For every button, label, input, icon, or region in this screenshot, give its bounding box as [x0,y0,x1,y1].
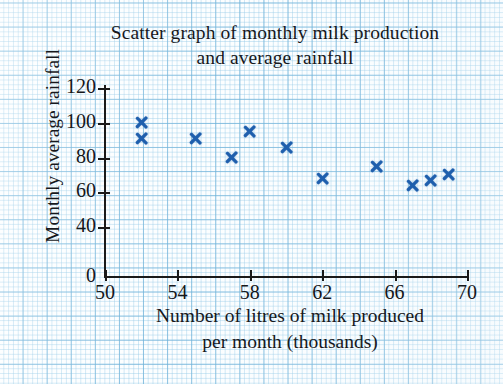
x-tick-label-62: 62 [302,281,342,304]
y-tick-40 [98,227,110,229]
y-tick-120 [98,88,110,90]
y-tick-80 [98,158,110,160]
x-tick-58 [250,270,252,281]
data-point [242,124,257,139]
data-point [188,131,203,146]
data-point [369,159,384,174]
x-tick-label-66: 66 [375,281,415,304]
y-tick-label-120: 120 [50,75,96,98]
x-tick-54 [177,270,179,281]
x-tick-70 [467,270,469,281]
x-tick-66 [395,270,397,281]
x-tick-label-54: 54 [157,281,197,304]
data-point [423,173,438,188]
y-tick-label-100: 100 [50,110,96,133]
x-tick-50 [105,270,107,281]
x-tick-label-58: 58 [230,281,270,304]
x-tick-label-50: 50 [85,281,125,304]
data-point [134,115,149,130]
x-tick-label-70: 70 [447,281,487,304]
chart-title-line-2: and average rainfall [60,45,490,70]
y-axis-tick-labels: 0406080100120 [44,0,96,384]
chart-title-line-1: Scatter graph of monthly milk production [111,22,439,43]
y-tick-label-40: 40 [50,214,96,237]
x-axis-label-line-2: per month (thousands) [95,329,485,355]
y-tick-label-80: 80 [50,145,96,168]
chart-title: Scatter graph of monthly milk production… [60,20,490,70]
data-point [405,178,420,193]
y-tick-60 [98,192,110,194]
y-axis-line [104,85,106,278]
data-point [441,167,456,182]
x-axis-label: Number of litres of milk produced per mo… [95,303,485,355]
x-tick-62 [322,270,324,281]
data-point [134,131,149,146]
y-tick-100 [98,123,110,125]
data-point [315,171,330,186]
x-axis-line [104,276,468,278]
x-axis-label-line-1: Number of litres of milk produced [156,305,424,326]
data-point [224,150,239,165]
y-tick-label-60: 60 [50,179,96,202]
scatter-chart: Scatter graph of monthly milk production… [0,0,503,384]
data-point [279,140,294,155]
